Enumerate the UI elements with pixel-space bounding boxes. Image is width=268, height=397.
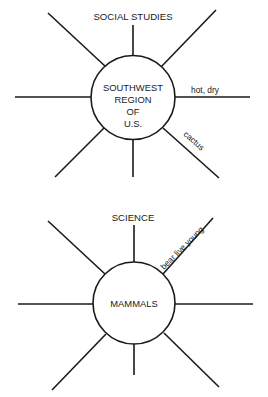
spoke-label-upper-right: bear live young <box>158 224 205 271</box>
subject-label: SOCIAL STUDIES <box>93 11 172 22</box>
topic-line-1: SOUTHWEST <box>103 82 163 93</box>
subject-label: SCIENCE <box>112 212 155 223</box>
topic-line-2: REGION <box>115 94 152 105</box>
spoke-lower-left <box>52 334 106 390</box>
semantic-webs-figure: SOCIAL STUDIES SOUTHWEST REGION OF U.S. … <box>0 0 268 397</box>
spoke-lower-right <box>164 333 219 387</box>
spoke-lower-left <box>55 128 104 177</box>
topic-line-3: OF <box>126 106 139 117</box>
web-social-studies: SOCIAL STUDIES SOUTHWEST REGION OF U.S. … <box>15 10 250 178</box>
topic-line-4: U.S. <box>124 118 142 129</box>
spoke-upper-left <box>48 221 105 274</box>
spoke-label-right: hot, dry <box>191 85 220 95</box>
topic-line-1: MAMMALS <box>110 298 157 309</box>
web-science: SCIENCE MAMMALS bear live young <box>18 212 253 390</box>
